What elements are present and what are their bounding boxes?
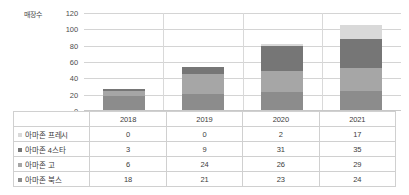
table-col-header: 2018 bbox=[90, 112, 166, 127]
bar-segment[interactable] bbox=[182, 67, 224, 74]
table-col-header: 2021 bbox=[319, 112, 395, 127]
data-table: 2018 2019 2020 2021 아마존 프레시00217아마존 4스타3… bbox=[13, 111, 396, 187]
legend-swatch-icon bbox=[18, 133, 22, 137]
table-cell: 0 bbox=[166, 127, 242, 142]
bar-segment[interactable] bbox=[261, 46, 303, 71]
plot-area: 매장수 120100806040200 bbox=[0, 0, 409, 118]
bar-column[interactable] bbox=[261, 44, 303, 111]
legend-row-label: 아마존 프레시 bbox=[14, 127, 90, 142]
table-cell: 26 bbox=[243, 157, 319, 172]
bar-segment[interactable] bbox=[340, 39, 382, 68]
bar-segment[interactable] bbox=[182, 94, 224, 111]
y-axis-tick-label: 20 bbox=[48, 90, 78, 99]
bar-column[interactable] bbox=[103, 89, 145, 111]
table-col-header: 2019 bbox=[166, 112, 242, 127]
legend-swatch-icon bbox=[18, 148, 22, 152]
table-header-row: 2018 2019 2020 2021 bbox=[14, 112, 396, 127]
legend-row-label: 아마존 북스 bbox=[14, 172, 90, 187]
y-axis-tick-label: 100 bbox=[48, 25, 78, 34]
table-cell: 6 bbox=[90, 157, 166, 172]
bars-layer bbox=[84, 13, 401, 111]
legend-label-text: 아마존 고 bbox=[25, 161, 55, 170]
legend-swatch-icon bbox=[18, 163, 22, 167]
table-cell: 0 bbox=[90, 127, 166, 142]
table-cell: 23 bbox=[243, 172, 319, 187]
table-col-header: 2020 bbox=[243, 112, 319, 127]
y-axis-title: 매장수 bbox=[24, 9, 41, 19]
y-axis-tick-label: 40 bbox=[48, 74, 78, 83]
table-row: 아마존 4스타393135 bbox=[14, 142, 396, 157]
table-cell: 2 bbox=[243, 127, 319, 142]
y-axis-tick-label: 80 bbox=[48, 41, 78, 50]
table-cell: 18 bbox=[90, 172, 166, 187]
legend-label-text: 아마존 북스 bbox=[25, 176, 61, 185]
legend-swatch-icon bbox=[18, 178, 22, 182]
chart-figure: 매장수 120100806040200 2018 2019 2020 2021 … bbox=[0, 0, 409, 195]
table-body: 아마존 프레시00217아마존 4스타393135아마존 고6242629아마존… bbox=[14, 127, 396, 187]
bar-segment[interactable] bbox=[261, 71, 303, 92]
legend-label-text: 아마존 4스타 bbox=[25, 146, 66, 155]
table-cell: 21 bbox=[166, 172, 242, 187]
legend-row-label: 아마존 4스타 bbox=[14, 142, 90, 157]
table-cell: 9 bbox=[166, 142, 242, 157]
bar-segment[interactable] bbox=[261, 92, 303, 111]
table-cell: 24 bbox=[166, 157, 242, 172]
table-cell: 29 bbox=[319, 157, 395, 172]
bar-segment[interactable] bbox=[340, 25, 382, 39]
grid-area bbox=[84, 13, 401, 111]
bar-segment[interactable] bbox=[182, 74, 224, 94]
table-cell: 17 bbox=[319, 127, 395, 142]
legend-row-label: 아마존 고 bbox=[14, 157, 90, 172]
table-corner-cell bbox=[14, 112, 90, 127]
table-row: 아마존 북스18212324 bbox=[14, 172, 396, 187]
bar-column[interactable] bbox=[182, 67, 224, 111]
table-cell: 31 bbox=[243, 142, 319, 157]
y-axis-tick-label: 60 bbox=[48, 58, 78, 67]
table-cell: 3 bbox=[90, 142, 166, 157]
bar-segment[interactable] bbox=[103, 96, 145, 111]
bar-segment[interactable] bbox=[340, 68, 382, 92]
y-axis-tick-label: 120 bbox=[48, 9, 78, 18]
table-row: 아마존 프레시00217 bbox=[14, 127, 396, 142]
legend-label-text: 아마존 프레시 bbox=[25, 131, 68, 140]
table-row: 아마존 고6242629 bbox=[14, 157, 396, 172]
table-cell: 24 bbox=[319, 172, 395, 187]
bar-segment[interactable] bbox=[340, 91, 382, 111]
bar-column[interactable] bbox=[340, 25, 382, 111]
table-cell: 35 bbox=[319, 142, 395, 157]
data-table-wrap: 2018 2019 2020 2021 아마존 프레시00217아마존 4스타3… bbox=[13, 111, 396, 187]
